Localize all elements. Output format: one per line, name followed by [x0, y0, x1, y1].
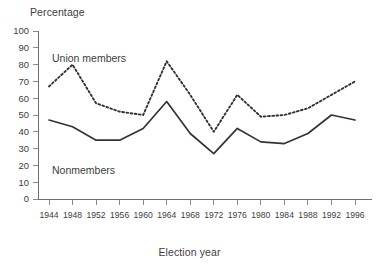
x-tick-label: 1968: [181, 210, 200, 220]
x-tick-label: 1972: [204, 210, 223, 220]
y-tick-label: 100: [13, 25, 29, 36]
y-tick-label: 40: [18, 126, 29, 137]
y-tick-label: 10: [18, 177, 29, 188]
y-tick-label: 60: [18, 93, 29, 104]
x-tick-label: 1988: [298, 210, 317, 220]
data-series-group: [49, 61, 355, 153]
series-label-union-members: Union members: [52, 52, 126, 64]
y-tick-label: 0: [24, 193, 29, 204]
x-tick-label: 1964: [157, 210, 176, 220]
x-tick-label: 1948: [63, 210, 82, 220]
chart-container: Percentage 1009080706050403020100 194419…: [0, 0, 379, 274]
x-axis-ticks: 1944194819521956196019641968197219761980…: [39, 199, 364, 220]
x-tick-label: 1984: [275, 210, 294, 220]
y-tick-label: 70: [18, 76, 29, 87]
series-line-union-members: [49, 61, 355, 132]
series-line-nonmembers: [49, 102, 355, 154]
y-tick-label: 20: [18, 160, 29, 171]
x-tick-label: 1944: [39, 210, 58, 220]
x-tick-label: 1952: [87, 210, 106, 220]
y-tick-label: 30: [18, 143, 29, 154]
y-axis-ticks: 1009080706050403020100: [13, 25, 38, 204]
x-tick-label: 1996: [345, 210, 364, 220]
x-tick-label: 1992: [322, 210, 341, 220]
x-tick-label: 1960: [134, 210, 153, 220]
y-tick-label: 50: [18, 109, 29, 120]
series-label-nonmembers: Nonmembers: [52, 164, 115, 176]
y-tick-label: 80: [18, 59, 29, 70]
y-tick-label: 90: [18, 42, 29, 53]
x-axis-title: Election year: [0, 246, 379, 258]
line-chart-plot: 1009080706050403020100 19441948195219561…: [0, 0, 379, 274]
x-tick-label: 1980: [251, 210, 270, 220]
x-tick-label: 1956: [110, 210, 129, 220]
x-tick-label: 1976: [228, 210, 247, 220]
